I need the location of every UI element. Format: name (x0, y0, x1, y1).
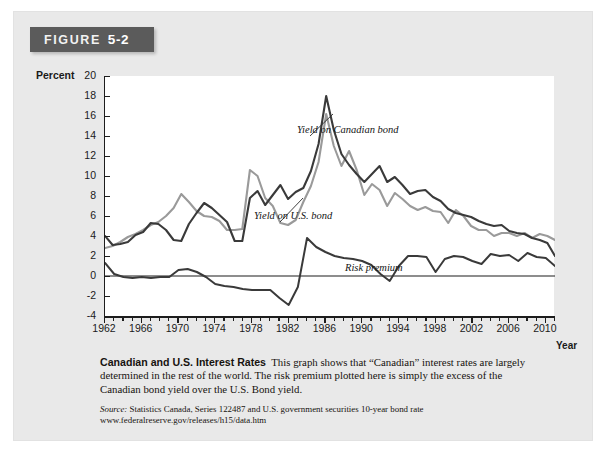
y-axis-tick-label: 20 (70, 69, 96, 81)
x-axis-minor-tick (499, 316, 500, 321)
figure-source: Source: Statistics Canada, Series 122487… (100, 404, 540, 426)
x-axis-minor-tick (196, 316, 197, 321)
x-axis-tick-label: 1962 (84, 322, 124, 334)
y-axis-tick-label: 0 (70, 269, 96, 281)
x-axis-tick-label: 1974 (194, 322, 234, 334)
x-axis-minor-tick (297, 316, 298, 321)
y-axis-tick-label: 4 (70, 229, 96, 241)
x-axis-minor-tick (462, 316, 463, 321)
y-axis-tick-mark (104, 216, 110, 217)
y-axis-tick-mark (104, 196, 110, 197)
x-axis-minor-tick (132, 316, 133, 321)
x-axis-minor-tick (453, 316, 454, 321)
x-axis-minor-tick (223, 316, 224, 321)
x-axis-minor-tick (481, 316, 482, 321)
x-axis-minor-tick (260, 316, 261, 321)
x-axis-minor-tick (407, 316, 408, 321)
y-axis-tick-mark (104, 276, 110, 277)
figure-number: 5-2 (108, 32, 129, 47)
figure-label: FIGURE (30, 33, 101, 47)
x-axis-minor-tick (306, 316, 307, 321)
caption-title: Canadian and U.S. Interest Rates (100, 356, 266, 368)
x-axis-tick-label: 2010 (525, 322, 565, 334)
x-axis-minor-tick (315, 316, 316, 321)
x-axis-minor-tick (416, 316, 417, 321)
x-axis-title: Year (556, 340, 577, 351)
x-axis-minor-tick (205, 316, 206, 321)
source-text: Statistics Canada, Series 122487 and U.S… (100, 404, 424, 425)
x-axis-tick-label: 2006 (488, 322, 528, 334)
chart-canvas (105, 76, 555, 316)
x-axis-tick-label: 2002 (451, 322, 491, 334)
series-line-risk-premium (105, 238, 555, 305)
y-axis-tick-mark (104, 76, 110, 77)
x-axis-tick-label: 1998 (415, 322, 455, 334)
x-axis-minor-tick (490, 316, 491, 321)
x-axis-minor-tick (269, 316, 270, 321)
y-axis-tick-label: 6 (70, 209, 96, 221)
y-axis-title: Percent (36, 69, 75, 81)
y-axis-tick-mark (104, 116, 110, 117)
y-axis-tick-mark (104, 236, 110, 237)
plot-area (104, 76, 554, 316)
y-axis-tick-label: 2 (70, 249, 96, 261)
x-axis-minor-tick (352, 316, 353, 321)
y-axis-tick-label: -4 (70, 309, 96, 321)
x-axis-minor-tick (343, 316, 344, 321)
x-axis-tick-label: 1966 (121, 322, 161, 334)
x-axis-minor-tick (444, 316, 445, 321)
x-axis-line (104, 316, 554, 318)
x-axis-minor-tick (113, 316, 114, 321)
x-axis-tick-label: 1982 (268, 322, 308, 334)
y-axis-tick-label: 10 (70, 169, 96, 181)
x-axis-minor-tick (370, 316, 371, 321)
y-axis-tick-label: 18 (70, 89, 96, 101)
x-axis-minor-tick (334, 316, 335, 321)
y-axis-tick-mark (104, 136, 110, 137)
y-axis-tick-mark (104, 176, 110, 177)
source-word: Source: (100, 404, 127, 414)
x-axis-minor-tick (168, 316, 169, 321)
x-axis-minor-tick (517, 316, 518, 321)
x-axis-tick-label: 1970 (157, 322, 197, 334)
x-axis-minor-tick (526, 316, 527, 321)
y-axis-tick-label: 16 (70, 109, 96, 121)
x-axis-minor-tick (187, 316, 188, 321)
x-axis-minor-tick (536, 316, 537, 321)
x-axis-minor-tick (242, 316, 243, 321)
x-axis-minor-tick (389, 316, 390, 321)
figure-banner: FIGURE 5-2 (30, 27, 154, 52)
x-axis-tick-label: 1994 (378, 322, 418, 334)
y-axis-tick-mark (104, 296, 110, 297)
x-axis-minor-tick (278, 316, 279, 321)
y-axis-tick-mark (104, 156, 110, 157)
x-axis-minor-tick (122, 316, 123, 321)
y-axis-tick-label: 14 (70, 129, 96, 141)
y-axis-tick-label: -2 (70, 289, 96, 301)
y-axis-tick-label: 8 (70, 189, 96, 201)
x-axis-minor-tick (425, 316, 426, 321)
x-axis-minor-tick (159, 316, 160, 321)
annotation-risk-premium: Risk premium (345, 262, 403, 273)
x-axis-minor-tick (233, 316, 234, 321)
x-axis-tick-label: 1978 (231, 322, 271, 334)
x-axis-minor-tick (380, 316, 381, 321)
y-axis-tick-label: 12 (70, 149, 96, 161)
annotation-us-bond: Yield on U.S. bond (254, 210, 332, 221)
x-axis-tick-label: 1986 (304, 322, 344, 334)
y-axis-tick-mark (104, 256, 110, 257)
x-axis-tick-label: 1990 (341, 322, 381, 334)
figure-caption: Canadian and U.S. Interest Rates This gr… (100, 356, 532, 396)
x-axis-minor-tick (554, 316, 555, 321)
x-axis-minor-tick (150, 316, 151, 321)
y-axis-tick-mark (104, 96, 110, 97)
figure-page: FIGURE 5-2 Percent Year Yield on Canadia… (0, 0, 607, 454)
annotation-canadian-bond: Yield on Canadian bond (297, 124, 399, 135)
